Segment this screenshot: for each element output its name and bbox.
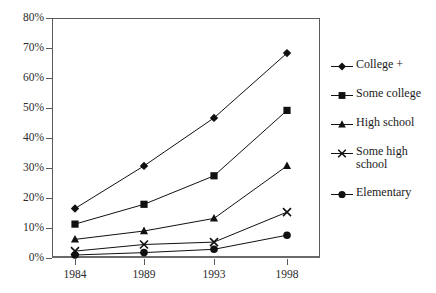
legend-item-some-college: Some college [330,87,434,101]
x-axis-tick-label: 1993 [203,268,226,280]
y-axis-tick-label: 80% [23,12,44,24]
legend-item-some-high-school: Some high school [330,145,434,171]
circle-marker-icon [330,187,354,200]
y-axis-tick-label: 20% [23,192,44,204]
y-axis-tick-mark [46,258,52,259]
diamond-marker-icon [330,59,354,72]
legend-label: Some college [356,87,421,100]
x-axis-tick-mark [287,259,288,265]
y-axis-tick-mark [46,78,52,79]
square-marker-icon [330,88,354,101]
y-axis-tick-mark [46,48,52,49]
chart-figure: 80%70%60%50%40%30%20%10%0% 1984198919931… [0,0,436,293]
chart-legend: College +Some collegeHigh schoolSome hig… [330,58,434,215]
y-axis-tick-label: 0% [29,252,44,264]
y-axis-tick-label: 60% [23,72,44,84]
y-axis: 80%70%60%50%40%30%20%10%0% [0,0,44,293]
y-axis-tick-label: 50% [23,102,44,114]
y-axis-tick-mark [46,168,52,169]
legend-label: Some high school [356,145,408,171]
y-axis-tick-mark [46,108,52,109]
x-axis-tick-label: 1989 [133,268,156,280]
legend-item-elementary: Elementary [330,186,434,200]
y-axis-tick-mark [46,138,52,139]
x-axis-tick-mark [144,259,145,265]
x-axis-tick-mark [214,259,215,265]
x-axis-tick-label: 1984 [64,268,87,280]
y-axis-tick-label: 30% [23,162,44,174]
y-axis-tick-label: 70% [23,42,44,54]
y-axis-tick-mark [46,18,52,19]
y-axis-tick-label: 40% [23,132,44,144]
x-axis-tick-label: 1998 [276,268,299,280]
y-axis-tick-mark [46,228,52,229]
triangle-marker-icon [330,117,354,130]
plot-area [52,18,320,258]
legend-label: College + [356,58,403,71]
y-axis-tick-label: 10% [23,222,44,234]
legend-label: High school [356,116,414,129]
x-marker-icon [330,146,354,159]
x-axis-tick-mark [75,259,76,265]
legend-item-college-: College + [330,58,434,72]
legend-item-high-school: High school [330,116,434,130]
y-axis-tick-mark [46,198,52,199]
legend-label: Elementary [356,186,411,199]
